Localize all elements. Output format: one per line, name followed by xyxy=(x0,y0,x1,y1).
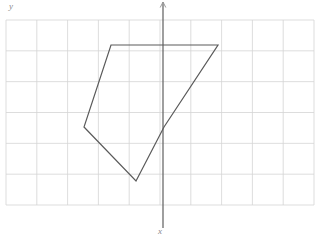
axis-lines xyxy=(160,2,166,228)
y-axis-label: y xyxy=(8,1,13,11)
grid-lines xyxy=(6,20,314,205)
pentagon-shape xyxy=(84,45,218,181)
figure-canvas: y x xyxy=(0,0,320,237)
x-axis-label: x xyxy=(157,226,162,236)
polygon-layer xyxy=(84,45,218,181)
geometry-figure: y x xyxy=(0,0,320,237)
